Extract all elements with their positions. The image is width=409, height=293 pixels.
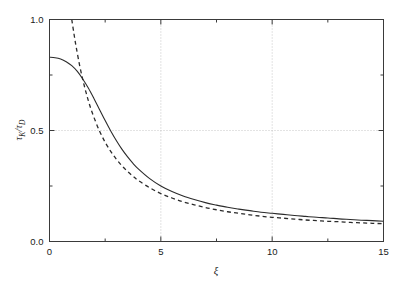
y-title-tau-d-sub: D <box>18 119 27 126</box>
x-axis-title: ξ <box>214 265 219 277</box>
x-tick-label: 15 <box>378 246 389 257</box>
y-tick-label: 0.5 <box>30 125 43 136</box>
chart-figure: 0510150.00.51.0 ξ τK/τD <box>0 0 409 293</box>
y-tick-label: 1.0 <box>30 14 43 25</box>
figure-background <box>0 0 409 293</box>
y-tick-label: 0.0 <box>30 236 43 247</box>
x-tick-label: 0 <box>47 246 52 257</box>
x-tick-label: 10 <box>267 246 278 257</box>
x-tick-label: 5 <box>158 246 163 257</box>
